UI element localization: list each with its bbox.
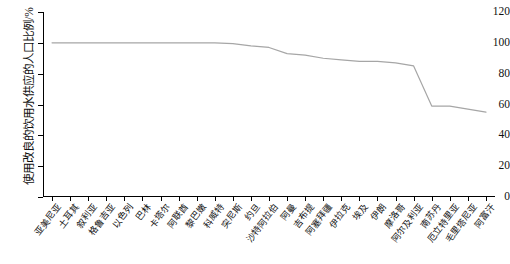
y-axis-tick-label: 120: [484, 6, 510, 18]
x-axis-tick-label: 阿富汗: [473, 203, 497, 230]
x-axis-tick: [215, 197, 216, 201]
y-axis-tick-label: 100: [484, 37, 510, 49]
x-axis-tick: [468, 197, 469, 201]
y-axis-tick: [38, 43, 43, 44]
y-axis-tick-label: 60: [484, 99, 510, 111]
y-axis-tick-label: 20: [484, 160, 510, 172]
series-line: [43, 12, 495, 197]
x-axis-tick-label: 以色列: [112, 203, 136, 230]
plot-area: [43, 12, 495, 197]
x-axis-tick-label: 突尼斯: [220, 203, 244, 230]
x-axis-tick: [179, 197, 180, 201]
x-axis-tick: [305, 197, 306, 201]
y-axis-tick: [38, 197, 43, 198]
y-axis-tick: [38, 12, 43, 13]
x-axis-tick-label: 亚美尼亚: [34, 203, 63, 237]
x-axis-tick: [377, 197, 378, 201]
x-axis-tick: [124, 197, 125, 201]
x-axis-tick-label: 约旦: [244, 203, 262, 223]
x-axis-tick: [396, 197, 397, 201]
x-axis-tick: [486, 197, 487, 201]
y-axis-tick: [38, 166, 43, 167]
x-axis-tick: [142, 197, 143, 201]
x-axis-tick-label: 阿塞拜疆: [305, 203, 334, 237]
x-axis-tick: [287, 197, 288, 201]
x-axis-tick-label: 卡塔尔: [148, 203, 172, 230]
x-axis-tick: [323, 197, 324, 201]
y-axis-tick: [38, 74, 43, 75]
x-axis-tick-label: 土耳其: [57, 203, 81, 230]
y-axis-tick: [38, 105, 43, 106]
x-axis-tick: [70, 197, 71, 201]
x-axis-tick-label: 科威特: [202, 203, 226, 230]
x-axis-tick: [161, 197, 162, 201]
x-axis-tick-label: 阿联酋: [166, 203, 190, 230]
x-axis-tick-label: 摩洛哥: [383, 203, 407, 230]
x-axis-tick: [359, 197, 360, 201]
x-axis-tick: [52, 197, 53, 201]
x-axis-tick-label: 吉布提: [293, 203, 317, 230]
x-axis-tick-label: 叙利亚: [76, 203, 100, 230]
y-axis-tick-labels: [0, 0, 36, 185]
x-axis-tick: [233, 197, 234, 201]
x-axis-tick-label: 伊朗: [370, 203, 388, 223]
y-axis-tick-label: 40: [484, 129, 510, 141]
x-axis-tick: [197, 197, 198, 201]
y-axis-tick-label: 0: [484, 191, 510, 203]
x-axis-tick-label: 南苏丹: [419, 203, 443, 230]
x-axis-tick: [341, 197, 342, 201]
x-axis-tick-label: 厄立特里亚: [426, 203, 461, 244]
x-axis-tick-label: 埃及: [352, 203, 370, 223]
x-axis-tick-label: 沙特阿拉伯: [245, 203, 280, 244]
x-axis-tick-label: 毛里塔尼亚: [444, 203, 479, 244]
x-axis-tick-label: 阿尔及利亚: [390, 203, 425, 244]
x-axis-tick: [432, 197, 433, 201]
y-axis-tick-label: 80: [484, 68, 510, 80]
x-axis-tick: [88, 197, 89, 201]
x-axis-tick: [269, 197, 270, 201]
x-axis-tick-label: 黎巴嫩: [184, 203, 208, 230]
y-axis-tick: [38, 135, 43, 136]
x-axis-tick: [106, 197, 107, 201]
line-chart: 使用改良的饮用水供应的人口比例/% 亚美尼亚土耳其叙利亚格鲁吉亚以色列巴林卡塔尔…: [0, 0, 510, 264]
x-axis-tick: [450, 197, 451, 201]
x-axis-tick-label: 格鲁吉亚: [88, 203, 117, 237]
x-axis-tick: [251, 197, 252, 201]
x-axis-tick-label: 阿曼: [280, 203, 298, 223]
x-axis-tick: [414, 197, 415, 201]
x-axis-tick-label: 伊拉克: [329, 203, 353, 230]
x-axis-tick-label: 巴林: [135, 203, 153, 223]
